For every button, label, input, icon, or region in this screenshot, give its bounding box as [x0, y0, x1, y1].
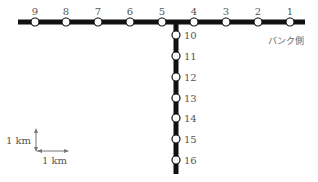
station-12	[172, 73, 180, 81]
station-10	[172, 31, 180, 39]
station-6	[126, 18, 134, 26]
station-label: 7	[95, 6, 101, 17]
station-14	[172, 114, 180, 122]
scale-horizontal-label: 1 km	[42, 155, 68, 166]
station-label: 14	[184, 113, 197, 124]
scale-indicator: 1 km 1 km	[6, 128, 69, 166]
station-label: 10	[184, 30, 197, 41]
station-label: 12	[184, 72, 197, 83]
station-15	[172, 135, 180, 143]
station-1	[286, 18, 294, 26]
station-label: 9	[32, 6, 38, 17]
station-2	[254, 18, 262, 26]
station-label: 2	[255, 6, 261, 17]
station-label: 13	[184, 93, 197, 104]
station-label: 1	[287, 6, 293, 17]
station-8	[62, 18, 70, 26]
scale-vertical-label: 1 km	[6, 135, 32, 146]
station-16	[172, 156, 180, 164]
station-label: 6	[127, 6, 133, 17]
station-4	[190, 18, 198, 26]
station-3	[222, 18, 230, 26]
station-label: 16	[184, 155, 197, 166]
rail-network-diagram: 987654321 10111213141516 バンク側 1 km 1 km	[0, 0, 318, 182]
station-label: 3	[223, 6, 229, 17]
station-9	[31, 18, 39, 26]
station-label: 5	[159, 6, 165, 17]
station-label: 11	[184, 51, 197, 62]
station-5	[158, 18, 166, 26]
station-label: 4	[191, 6, 197, 17]
horizontal-stations: 987654321	[31, 6, 294, 26]
bank-side-label: バンク側	[268, 35, 304, 46]
station-11	[172, 52, 180, 60]
station-13	[172, 94, 180, 102]
station-label: 15	[184, 134, 197, 145]
station-7	[94, 18, 102, 26]
station-label: 8	[63, 6, 69, 17]
